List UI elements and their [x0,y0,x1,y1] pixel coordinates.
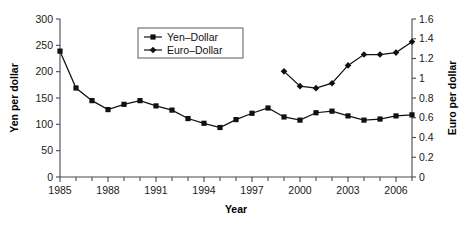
y-tick-label-right: 0.2 [419,151,434,163]
y-tick-label-right: 1.2 [419,52,434,64]
y-tick-label-right: 1.4 [419,32,434,44]
data-point-marker [313,85,320,92]
y-tick-label-right: 1.6 [419,13,434,25]
series-yen-dollar [57,49,414,131]
data-point-marker [329,109,334,114]
legend: Yen–DollarEuro–Dollar [138,28,243,58]
data-point-marker [217,125,222,130]
data-point-marker [73,85,78,90]
data-point-marker [153,103,158,108]
data-point-marker [361,118,366,123]
x-tick-label: 1997 [240,184,264,196]
data-point-marker [57,49,62,54]
series-line [60,51,412,127]
legend-square-icon [150,34,155,39]
y-axis-title-left: Yen per dollar [8,63,20,132]
y-tick-label-right: 0.4 [419,131,434,143]
data-point-marker [377,116,382,121]
data-point-marker [137,98,142,103]
x-tick-label: 1985 [48,184,72,196]
y-tick-label-right: 0.6 [419,111,434,123]
y-tick-label-left: 200 [35,65,53,77]
x-axis-title: Year [225,203,247,215]
x-tick-label: 1988 [96,184,120,196]
data-point-marker [409,112,414,117]
series-euro-dollar [281,38,416,91]
x-tick-label: 2006 [384,184,408,196]
y-tick-label-right: 1 [419,72,425,84]
x-tick-label: 2000 [288,184,312,196]
data-point-marker [201,121,206,126]
data-point-marker [121,102,126,107]
y-tick-label-left: 250 [35,39,53,51]
data-point-marker [297,118,302,123]
data-point-marker [185,116,190,121]
y-tick-label-right: 0 [419,171,425,183]
x-tick-label: 1994 [192,184,216,196]
y-tick-label-left: 0 [47,171,53,183]
y-tick-label-left: 100 [35,118,53,130]
data-point-marker [393,113,398,118]
data-point-marker [265,105,270,110]
legend-label-0: Yen–Dollar [167,31,218,43]
legend-label-1: Euro–Dollar [167,44,223,56]
chart-svg: 05010015020025030000.20.40.60.811.21.41.… [0,0,467,228]
y-tick-label-left: 300 [35,13,53,25]
data-point-marker [105,107,110,112]
data-point-marker [281,114,286,119]
data-point-marker [89,98,94,103]
y-tick-label-left: 150 [35,92,53,104]
x-tick-label: 2003 [336,184,360,196]
data-point-marker [249,111,254,116]
chart-container: 05010015020025030000.20.40.60.811.21.41.… [0,0,467,228]
data-point-marker [233,117,238,122]
data-point-marker [313,110,318,115]
data-point-marker [377,51,384,58]
x-tick-label: 1991 [144,184,168,196]
y-axis-title-right: Euro per dollar [446,61,458,136]
y-tick-label-right: 0.8 [419,92,434,104]
data-point-marker [345,113,350,118]
y-tick-label-left: 50 [41,144,53,156]
data-point-marker [169,108,174,113]
